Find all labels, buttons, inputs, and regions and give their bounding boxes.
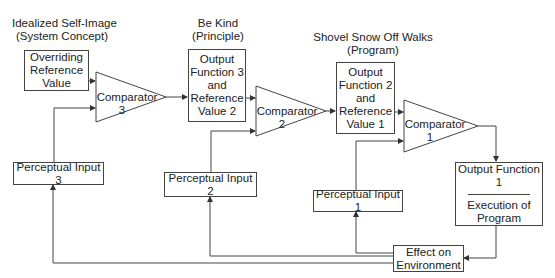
box-line: Output (200, 53, 235, 66)
box-line: Overriding (30, 51, 83, 64)
effect-on-environment-box: Effect on Environment (393, 245, 464, 272)
box-line: Perceptual Input 3 (14, 161, 103, 187)
comparator-text: Comparator (256, 105, 318, 118)
perceptual-input-3-box: Perceptual Input 3 (13, 162, 104, 185)
comparator-1-label: Comparator 1 (404, 118, 466, 144)
box-line: Perceptual Input 1 (314, 188, 402, 214)
box-line: Function 3 (190, 66, 244, 79)
level-title-principle: Be Kind (Principle) (188, 17, 248, 43)
level-title: Shovel Snow Off Walks (308, 31, 438, 44)
comparator-number: 2 (256, 118, 318, 131)
box-line: Function 2 (339, 79, 393, 92)
box-line: Output (348, 66, 383, 79)
level-subtitle: (Program) (308, 44, 438, 57)
box-line: Program (477, 212, 521, 225)
box-line: Reference (30, 64, 83, 77)
box-line: Reference (190, 92, 243, 105)
box-line: Effect on (406, 246, 451, 259)
comparator-text: Comparator (404, 118, 466, 131)
comparator-2-label: Comparator 2 (256, 105, 318, 131)
box-line: Value 1 (346, 118, 384, 131)
perceptual-input-2-box: Perceptual Input 2 (164, 172, 257, 197)
comparator-text: Comparator (96, 91, 158, 104)
box-line: and (356, 92, 375, 105)
output-function-3-box: Output Function 3 and Reference Value 2 (188, 49, 246, 122)
box-line: Value (42, 77, 71, 90)
level-subtitle: (System Concept) (12, 30, 117, 43)
level-title-system-concept: Idealized Self-Image (System Concept) (12, 17, 117, 43)
box-title: Output Function 1 (456, 163, 542, 189)
comparator-3-label: Comparator 3 (96, 91, 158, 117)
level-title: Idealized Self-Image (12, 17, 117, 30)
overriding-reference-value-box: Overriding Reference Value (24, 50, 89, 91)
divider (468, 194, 530, 195)
box-line: Execution of (467, 199, 530, 212)
level-subtitle: (Principle) (188, 30, 248, 43)
box-line: Environment (396, 259, 461, 272)
box-line: and (207, 79, 226, 92)
box-line: Perceptual Input 2 (165, 172, 256, 198)
box-line: Reference (339, 105, 392, 118)
level-title: Be Kind (188, 17, 248, 30)
box-line: Value 2 (198, 105, 236, 118)
perceptual-input-1-box: Perceptual Input 1 (313, 190, 403, 212)
comparator-number: 1 (404, 131, 466, 144)
comparator-number: 3 (96, 104, 158, 117)
level-title-program: Shovel Snow Off Walks (Program) (308, 31, 438, 57)
output-function-2-box: Output Function 2 and Reference Value 1 (336, 62, 395, 134)
output-function-1-box: Output Function 1 Execution of Program (455, 162, 543, 226)
